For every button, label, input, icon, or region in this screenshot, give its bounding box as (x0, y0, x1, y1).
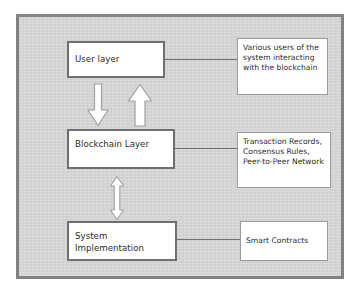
layer-label-system-implementation: System Implementation (75, 231, 171, 254)
note-label-system-implementation: Smart Contracts (246, 236, 324, 246)
connector-user-layer-to-note (165, 59, 237, 60)
note-box-user-layer[interactable]: Various users of the system interacting … (237, 38, 328, 95)
diagram-canvas: User layer Blockchain Layer System Imple… (0, 0, 360, 293)
arrow-user-to-blockchain-down-icon (86, 83, 110, 127)
connector-blockchain-layer-to-note (175, 148, 237, 149)
arrow-blockchain-to-system-updown-icon (108, 175, 126, 221)
layer-label-blockchain-layer: Blockchain Layer (75, 139, 169, 151)
layer-box-user-layer[interactable]: User layer (67, 41, 165, 78)
connector-system-implementation-to-note (177, 239, 240, 240)
note-box-system-implementation[interactable]: Smart Contracts (240, 221, 328, 261)
layer-label-user-layer: User layer (75, 54, 159, 66)
layer-box-system-implementation[interactable]: System Implementation (67, 221, 177, 261)
note-label-blockchain-layer: Transaction Records, Consensus Rules, Pe… (243, 137, 327, 168)
note-label-user-layer: Various users of the system interacting … (243, 43, 324, 74)
layer-box-blockchain-layer[interactable]: Blockchain Layer (67, 129, 175, 169)
note-box-blockchain-layer[interactable]: Transaction Records, Consensus Rules, Pe… (237, 132, 331, 188)
arrow-blockchain-to-user-up-icon (126, 83, 154, 127)
